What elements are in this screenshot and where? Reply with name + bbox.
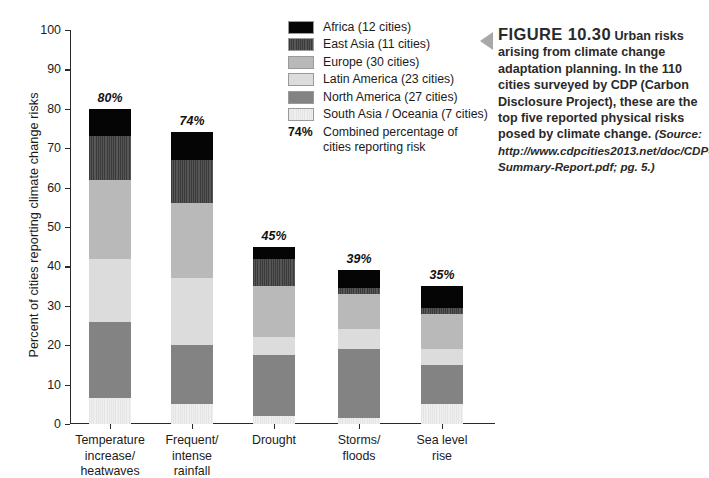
bar-segment-north[interactable] [421,365,463,404]
bar-segment-africa[interactable] [421,286,463,308]
legend-note-percent: 74% [288,125,314,140]
y-tick [65,306,70,307]
legend-swatch-icon [288,108,314,121]
chart-legend: Africa (12 cities)East Asia (11 cities)E… [288,20,493,158]
bar-total-label: 35% [430,268,455,282]
bar-segment-africa[interactable] [338,270,380,288]
bar-segment-europe[interactable] [338,294,380,329]
bar-segment-north[interactable] [253,355,295,416]
bar-segment-south[interactable] [253,416,295,424]
y-tick [65,385,70,386]
legend-item[interactable]: Europe (30 cities) [288,55,493,70]
legend-note-text: Combined percentage of cities reporting … [323,125,473,156]
y-tick [65,148,70,149]
legend-item[interactable]: East Asia (11 cities) [288,37,493,52]
caption-text: FIGURE 10.30 Urban risks arising from cl… [498,26,703,176]
y-tick-label: 30 [47,299,61,313]
bar-stack[interactable]: 45%Drought [253,247,295,424]
x-tick-label-line: heatwaves [75,464,145,478]
legend-item-label: Latin America (23 cities) [323,72,454,87]
bar-segment-europe[interactable] [171,203,213,278]
bar-total-label: 39% [347,252,372,266]
bar-segment-latin[interactable] [338,329,380,349]
caption-body: Urban risks arising from climate change … [498,29,697,141]
bar-segment-europe[interactable] [421,314,463,349]
y-tick [65,109,70,110]
legend-item[interactable]: North America (27 cities) [288,90,493,105]
bar-stack[interactable]: 39%Storms/floods [338,270,380,424]
bar-segment-africa[interactable] [253,247,295,259]
y-tick [65,227,70,228]
legend-item[interactable]: Latin America (23 cities) [288,72,493,87]
y-tick-label: 40 [47,259,61,273]
y-tick-label: 90 [47,62,61,76]
x-tick-label-line: intense [165,449,218,465]
legend-item-label: Europe (30 cities) [323,55,419,70]
bar-stack[interactable]: 35%Sea levelrise [421,286,463,424]
legend-item-label: Africa (12 cities) [323,20,411,35]
y-tick-label: 0 [54,417,61,431]
y-axis-title: Percent of cities reporting climate chan… [27,15,41,435]
bar-total-label: 74% [180,114,205,128]
legend-swatch-icon [288,38,314,51]
x-tick-label: Temperatureincrease/heatwaves [75,433,145,478]
bar-segment-eastasia[interactable] [171,160,213,203]
bar-total-label: 45% [262,229,287,243]
x-tick-label-line: floods [338,449,381,465]
y-tick-label: 70 [47,141,61,155]
legend-item-label: South Asia / Oceania (7 cities) [323,107,488,122]
x-tick-label-line: rise [417,449,468,465]
bar-segment-eastasia[interactable] [89,136,131,179]
caption-triangle-icon [480,32,493,50]
x-tick-label: Drought [252,433,296,449]
bar-segment-latin[interactable] [171,278,213,345]
x-tick [110,424,111,429]
legend-swatch-icon [288,56,314,69]
bar-stack[interactable]: 80%Temperatureincrease/heatwaves [89,109,131,424]
y-tick [65,345,70,346]
legend-swatch-icon [288,73,314,86]
y-tick [65,266,70,267]
y-axis-line [70,30,71,424]
caption-figure-number: FIGURE 10.30 [498,25,611,43]
bar-segment-eastasia[interactable] [253,259,295,287]
y-tick-label: 100 [40,23,61,37]
y-tick-label: 60 [47,181,61,195]
bar-segment-latin[interactable] [421,349,463,365]
y-tick [65,424,70,425]
x-tick-label: Sea levelrise [417,433,468,464]
x-tick-label-line: Frequent/ [165,433,218,449]
y-tick-label: 10 [47,378,61,392]
y-tick [65,188,70,189]
bar-stack[interactable]: 74%Frequent/intenserainfall [171,132,213,424]
x-tick-label-line: Drought [252,433,296,449]
bar-segment-south[interactable] [89,398,131,424]
x-tick [359,424,360,429]
x-tick-label: Frequent/intenserainfall [165,433,218,478]
x-tick [442,424,443,429]
bar-segment-south[interactable] [171,404,213,424]
bar-segment-south[interactable] [421,404,463,424]
x-tick-label-line: rainfall [165,464,218,478]
bar-segment-europe[interactable] [89,180,131,259]
bar-segment-north[interactable] [89,322,131,399]
bar-segment-europe[interactable] [253,286,295,337]
bar-segment-north[interactable] [338,349,380,418]
bar-segment-north[interactable] [171,345,213,404]
x-tick [192,424,193,429]
legend-swatch-icon [288,21,314,34]
legend-item-label: North America (27 cities) [323,90,458,105]
bar-segment-latin[interactable] [89,259,131,322]
bar-segment-africa[interactable] [171,132,213,160]
y-tick [65,30,70,31]
x-tick-label-line: Temperature [75,433,145,449]
legend-note: 74%Combined percentage of cities reporti… [288,125,493,156]
bar-segment-africa[interactable] [89,109,131,137]
bar-segment-latin[interactable] [253,337,295,355]
x-tick [274,424,275,429]
legend-swatch-icon [288,91,314,104]
legend-item[interactable]: Africa (12 cities) [288,20,493,35]
x-tick-label-line: increase/ [75,449,145,465]
legend-item[interactable]: South Asia / Oceania (7 cities) [288,107,493,122]
figure-root: Percent of cities reporting climate chan… [0,0,709,478]
